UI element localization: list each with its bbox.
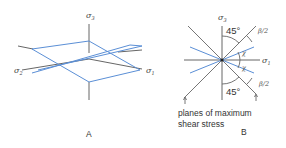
- sigma1-label: σ1: [146, 66, 155, 76]
- angle-45-top: 45°: [226, 25, 241, 36]
- origin-point: [220, 58, 223, 61]
- sigma3-label: σ3: [86, 11, 95, 21]
- sigma1-axis: [89, 59, 142, 69]
- angle-45-bottom: 45°: [226, 86, 241, 97]
- angle-arc-top: [222, 36, 239, 43]
- chi-bottom: χ: [241, 64, 247, 72]
- half-beta-arc-bottom: [247, 78, 252, 84]
- sigma2-label: σ2: [14, 66, 23, 76]
- stress-diagram: σ3 σ2 σ1 A σ3 σ1: [0, 0, 286, 148]
- half-beta-arc-top: [247, 36, 252, 42]
- sigma1-label-b: σ1: [262, 56, 271, 66]
- panel-b-caption: B: [241, 127, 247, 137]
- sigma3-label-b: σ3: [218, 13, 227, 23]
- angle-arc-bottom: [222, 77, 239, 84]
- half-beta-bottom: β/2: [258, 80, 269, 88]
- panel-b: σ3 σ1 45° 45° β/2 β/2 χ χ planes of maxi…: [178, 13, 271, 137]
- axis-back-left: [18, 46, 33, 49]
- half-beta-top: β/2: [257, 27, 268, 35]
- note-line-1: planes of maximum: [178, 108, 252, 118]
- max-shear-plane-2: [184, 26, 256, 98]
- panel-a: σ3 σ2 σ1 A: [14, 11, 155, 139]
- panel-a-caption: A: [86, 129, 92, 139]
- note-line-2: shear stress: [178, 119, 224, 129]
